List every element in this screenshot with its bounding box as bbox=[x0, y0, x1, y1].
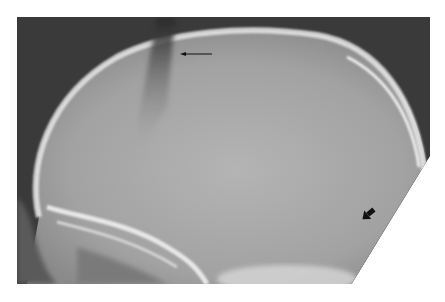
xray-drawing bbox=[17, 17, 430, 284]
skull-xray-image bbox=[17, 17, 430, 284]
